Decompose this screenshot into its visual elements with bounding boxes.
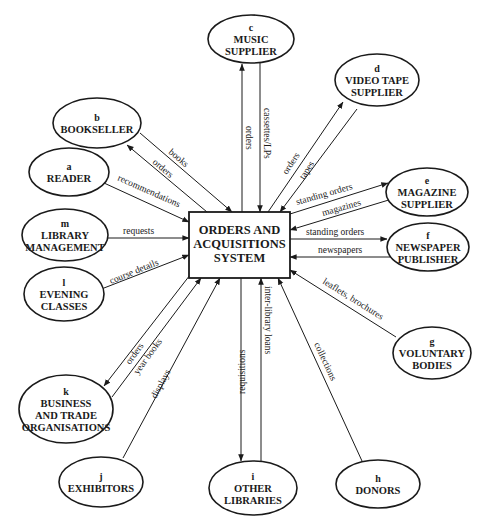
entity-label: MAGAZINE	[398, 187, 457, 198]
flow-b-to-center: books	[140, 133, 232, 212]
entity-newspaper-publisher: fNEWSPAPERPUBLISHER	[387, 223, 469, 271]
entity-bookseller: bBOOKSELLER	[53, 98, 141, 148]
entity-label: SUPPLIER	[351, 87, 403, 98]
entity-label: VOLUNTARY	[399, 348, 466, 359]
entity-label: EVENING	[39, 289, 88, 300]
entity-label: ORGANISATIONS	[22, 422, 111, 433]
entity-reader: aREADER	[29, 148, 109, 196]
entity-letter: h	[375, 473, 381, 484]
entity-label: MUSIC	[233, 34, 268, 45]
flow-label: newspapers	[318, 245, 363, 255]
entity-label: READER	[47, 173, 92, 184]
dfd-diagram: booksordersrecommendationsorderscassette…	[0, 0, 492, 528]
flow-center-to-k: orders	[104, 275, 190, 386]
entity-label: LIBRARIES	[224, 495, 282, 506]
entity-library-management: mLIBRARYMANAGEMENT	[22, 209, 108, 261]
entity-evening-classes: lEVENINGCLASSES	[24, 267, 104, 321]
entity-label: OTHER	[234, 483, 272, 494]
center-label-line-3: SYSTEM	[214, 251, 266, 265]
entity-label: PUBLISHER	[398, 254, 459, 265]
entity-video-tape-supplier: dVIDEO TAPESUPPLIER	[335, 54, 419, 106]
entity-donors: hDONORS	[336, 460, 420, 508]
entity-label: MANAGEMENT	[25, 242, 104, 253]
entity-label: BOOKSELLER	[61, 124, 134, 135]
entity-label: CLASSES	[41, 301, 88, 312]
flow-label: tapes	[297, 159, 316, 181]
flow-f-to-center: newspapers	[290, 245, 390, 257]
arrow-icon	[290, 270, 396, 337]
flow-label: displays	[149, 367, 173, 399]
entity-voluntary-bodies: gVOLUNTARYBODIES	[393, 327, 471, 379]
flow-label: course details	[108, 257, 160, 286]
entity-magazine-supplier: eMAGAZINESUPPLIER	[386, 168, 468, 216]
flow-label: requests	[123, 226, 154, 236]
entity-label: LIBRARY	[41, 230, 89, 241]
flow-label: cassettes/LPs	[262, 108, 272, 159]
entity-label: SUPPLIER	[401, 199, 453, 210]
flow-label: standing orders	[306, 227, 365, 237]
center-label-line-1: ORDERS AND	[199, 223, 281, 237]
entity-letter: a	[67, 161, 72, 172]
flow-label: requisitions	[237, 349, 247, 394]
entity-label: BODIES	[412, 360, 452, 371]
flow-g-to-center: leaflets, brochures	[290, 270, 396, 337]
entity-other-libraries: iOTHERLIBRARIES	[209, 461, 297, 515]
entity-letter: j	[98, 471, 102, 482]
entity-letter: c	[249, 22, 254, 33]
flow-c-to-center: cassettes/LPs	[260, 63, 272, 212]
flow-center-to-c: orders	[242, 64, 254, 212]
entity-label: VIDEO TAPE	[345, 75, 409, 86]
entity-letter: g	[430, 336, 435, 347]
arrow-icon	[104, 275, 190, 386]
flow-label: leaflets, brochures	[321, 276, 386, 322]
flow-center-to-f: standing orders	[290, 227, 387, 239]
central-process: ORDERS AND ACQUISITIONS SYSTEM	[189, 212, 290, 278]
entity-label: SUPPLIER	[225, 46, 277, 57]
entity-letter: b	[94, 112, 100, 123]
entity-label: AND TRADE	[35, 410, 97, 421]
flow-i-to-center: inter-library loans	[261, 278, 273, 461]
arrow-icon	[278, 278, 362, 461]
flow-l-to-center: course details	[104, 255, 189, 288]
entity-business-and-trade-organisations: kBUSINESSAND TRADEORGANISATIONS	[19, 375, 113, 443]
entity-label: EXHIBITORS	[68, 483, 134, 494]
flow-label: inter-library loans	[263, 286, 273, 354]
entity-exhibitors: jEXHIBITORS	[59, 457, 143, 507]
entity-label: DONORS	[356, 485, 401, 496]
entity-letter: d	[374, 63, 380, 74]
entity-letter: m	[61, 218, 70, 229]
flow-label: orders	[244, 126, 254, 150]
entity-letter: e	[425, 175, 430, 186]
flow-a-to-center: recommendations	[104, 173, 189, 222]
entity-letter: i	[252, 471, 255, 482]
entity-letter: l	[63, 277, 66, 288]
center-label-line-2: ACQUISITIONS	[193, 237, 285, 251]
arrow-icon	[140, 133, 232, 212]
entity-letter: k	[63, 386, 69, 397]
entity-label: NEWSPAPER	[395, 242, 461, 253]
flow-m-to-center: requests	[108, 226, 189, 238]
entity-label: BUSINESS	[41, 398, 92, 409]
flow-h-to-center: collections	[278, 278, 362, 461]
diagram-canvas: booksordersrecommendationsorderscassette…	[0, 0, 492, 528]
entity-music-supplier: cMUSICSUPPLIER	[208, 15, 294, 63]
flow-center-to-i: requisitions	[237, 278, 247, 461]
